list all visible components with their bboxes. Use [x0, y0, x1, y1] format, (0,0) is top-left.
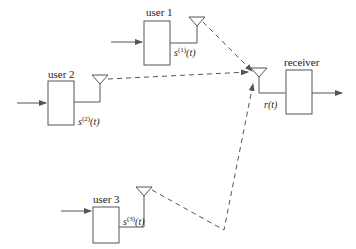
multiuser-channel-diagram: user 1 s(1)(t) user 2 s(2)(t) user 3 s(3…: [0, 0, 356, 249]
user-1-block: user 1 s(1)(t): [111, 6, 205, 65]
user-1-antenna-feed: [170, 26, 197, 43]
user-2-signal-label: s(2)(t): [78, 115, 100, 128]
user-1-box: [144, 21, 170, 65]
channel-path-user-1: [203, 22, 252, 71]
user-1-signal-label: s(1)(t): [174, 46, 196, 59]
user-2-box: [48, 81, 74, 125]
receiver-label: receiver: [284, 56, 320, 68]
channel-path-user-3: [152, 84, 253, 230]
user-3-block: user 3 s(3)(t): [61, 187, 152, 243]
channel-path-user-2: [108, 72, 248, 79]
user-2-antenna-feed: [74, 84, 100, 102]
user-2-block: user 2 s(2)(t): [17, 68, 108, 128]
antenna-icon: [92, 75, 108, 84]
antenna-icon: [189, 17, 205, 26]
receiver-antenna-feed: [259, 77, 285, 93]
user-2-label: user 2: [48, 68, 75, 80]
user-3-box: [93, 207, 119, 243]
user-1-label: user 1: [146, 6, 173, 18]
receiver-box: [286, 70, 312, 114]
user-3-label: user 3: [93, 193, 120, 205]
user-3-signal-label: s(3)(t): [123, 215, 145, 228]
antenna-icon: [251, 68, 267, 77]
receiver-block: receiver r(t): [251, 56, 342, 114]
antenna-icon: [136, 187, 152, 196]
receiver-signal-label: r(t): [264, 99, 278, 111]
